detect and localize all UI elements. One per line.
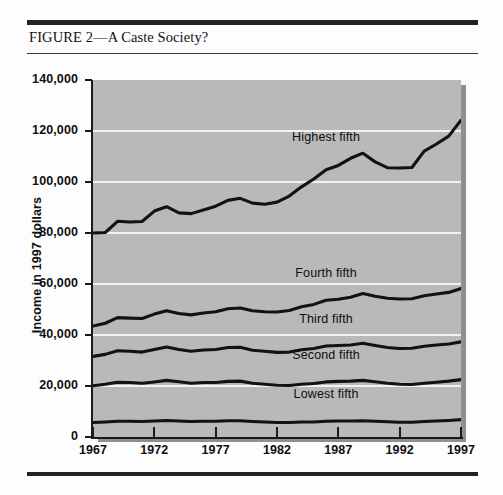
y-axis-tick-label: 20,000 <box>0 378 78 392</box>
series-label-third-fifth: Third fifth <box>299 312 353 326</box>
y-axis-title: Income in 1997 dollars <box>30 165 44 365</box>
figure-root: FIGURE 2—A Caste Society? 140,000120,000… <box>0 0 503 495</box>
series-lines <box>93 80 461 437</box>
x-axis-tick-label: 1977 <box>186 443 246 457</box>
series-line <box>93 342 461 357</box>
series-label-second-fifth: Second fifth <box>292 348 360 362</box>
y-axis-tick-label: 140,000 <box>0 72 78 86</box>
x-axis-tick-label: 1967 <box>63 443 123 457</box>
x-axis-tick-label: 1987 <box>308 443 368 457</box>
series-label-highest-fifth: Highest fifth <box>292 130 360 144</box>
series-line <box>93 289 461 326</box>
y-axis-tick-label: 120,000 <box>0 123 78 137</box>
chart-area: 140,000120,000100,00080,00060,00040,0002… <box>0 0 503 495</box>
series-line <box>93 420 461 423</box>
figure-bottom-rule <box>27 472 478 476</box>
x-axis-line <box>91 437 463 439</box>
x-axis-tick-label: 1982 <box>247 443 307 457</box>
y-axis-tick-label: 0 <box>0 429 78 443</box>
series-label-fourth-fifth: Fourth fifth <box>295 266 357 280</box>
x-axis-tick-label: 1972 <box>124 443 184 457</box>
x-axis-tick-label: 1997 <box>431 443 491 457</box>
series-line <box>93 380 461 386</box>
series-line <box>93 120 461 233</box>
series-label-lowest-fifth: Lowest fifth <box>294 387 359 401</box>
x-axis-tick-label: 1992 <box>370 443 430 457</box>
